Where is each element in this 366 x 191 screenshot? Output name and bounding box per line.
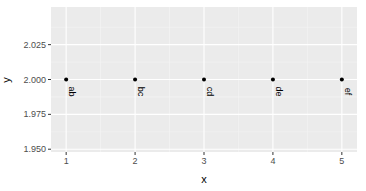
data-point — [133, 78, 137, 82]
y-tick-label: 2.000 — [23, 75, 46, 85]
scatter-chart: abbccddeef 1.9501.9752.0002.025 12345 x … — [0, 0, 366, 191]
point-label: de — [274, 86, 284, 96]
point-label: bc — [136, 87, 146, 97]
x-axis: 12345 — [64, 152, 345, 166]
y-axis-title: y — [0, 77, 12, 83]
x-tick-label: 5 — [339, 156, 344, 166]
data-point — [64, 78, 68, 82]
data-point — [340, 78, 344, 82]
x-tick-label: 4 — [270, 156, 275, 166]
point-label: cd — [205, 87, 215, 97]
point-label: ef — [343, 88, 353, 96]
y-tick-label: 1.975 — [23, 109, 46, 119]
y-axis: 1.9501.9752.0002.025 — [23, 40, 51, 155]
x-axis-title: x — [201, 173, 207, 185]
x-tick-label: 3 — [201, 156, 206, 166]
point-label: ab — [67, 86, 77, 96]
data-point — [271, 78, 275, 82]
y-tick-label: 1.950 — [23, 144, 46, 154]
data-point — [202, 78, 206, 82]
y-tick-label: 2.025 — [23, 40, 46, 50]
x-tick-label: 1 — [64, 156, 69, 166]
x-tick-label: 2 — [133, 156, 138, 166]
